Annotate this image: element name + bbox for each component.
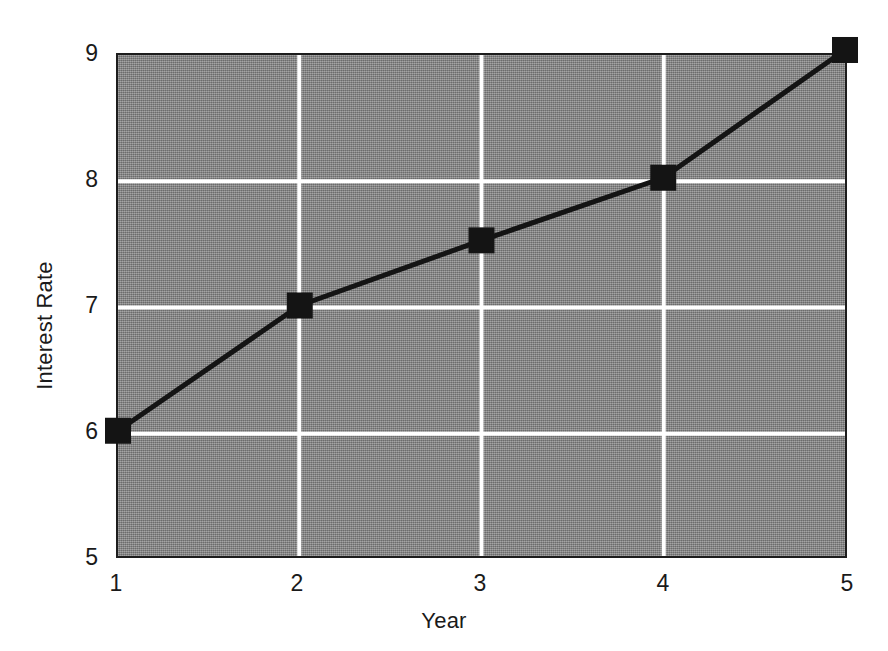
data-point-marker <box>105 418 131 444</box>
y-axis-tick-labels: 9 8 7 6 5 <box>0 0 98 651</box>
y-tick-label: 5 <box>8 546 98 569</box>
plot-area <box>116 53 847 558</box>
data-point-marker <box>650 165 676 191</box>
plot-canvas <box>116 53 847 558</box>
y-tick-label: 7 <box>8 294 98 317</box>
data-point-marker <box>287 293 313 319</box>
line-chart: Interest Rate 9 8 7 6 5 <box>0 0 888 651</box>
x-tick-label: 5 <box>807 572 887 595</box>
data-point-marker <box>469 227 495 253</box>
y-tick-label: 8 <box>8 168 98 191</box>
data-point-marker <box>832 37 858 63</box>
x-tick-label: 1 <box>76 572 156 595</box>
x-tick-label: 2 <box>257 572 337 595</box>
x-axis-tick-labels: 1 2 3 4 5 <box>0 572 888 612</box>
y-tick-label: 9 <box>8 42 98 65</box>
x-axis-title: Year <box>0 608 888 634</box>
x-tick-label: 4 <box>623 572 703 595</box>
x-tick-label: 3 <box>440 572 520 595</box>
y-tick-label: 6 <box>8 420 98 443</box>
